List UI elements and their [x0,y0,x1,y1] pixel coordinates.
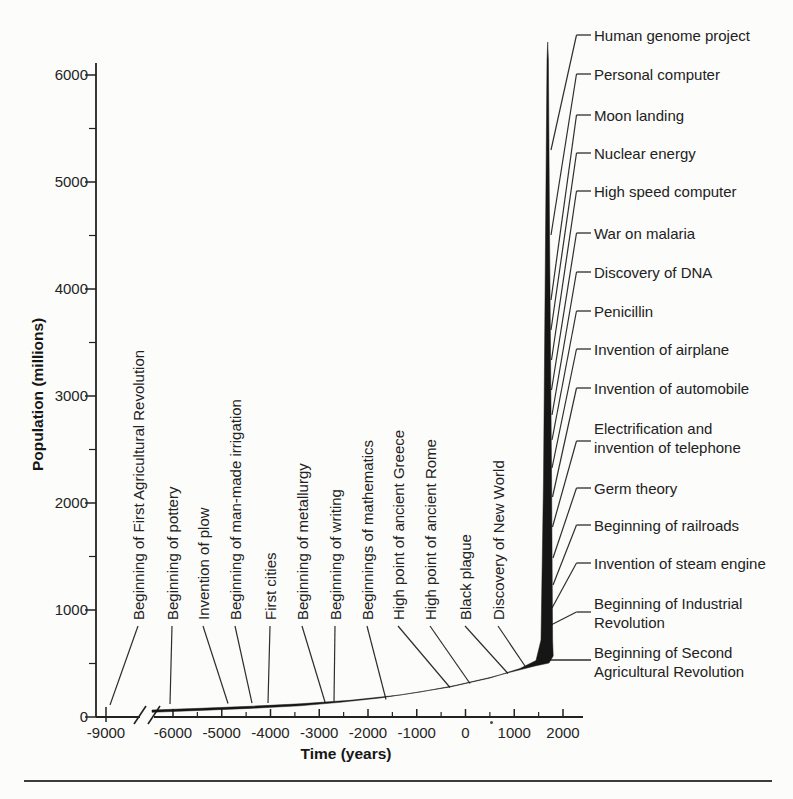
event-label-left-3: Beginning of man-made irrigation [226,399,245,620]
event-label-left-9: High point of ancient Rome [421,439,440,620]
event-label-right-8: Invention of airplane [594,340,793,359]
x-tick-label-2000: 2000 [531,724,595,741]
event-label-right-1: Personal computer [594,65,793,84]
event-label-right-0: Human genome project [594,26,793,45]
event-label-right-5: War on malaria [594,224,793,243]
leader-line-right-3 [551,153,577,330]
event-label-left-0: Beginning of First Agricultural Revoluti… [129,350,148,620]
leader-line-left-3 [235,626,252,703]
y-tick-label-5000: 5000 [42,173,88,190]
leader-line-left-11 [498,626,526,668]
event-label-left-11: Discovery of New World [489,460,508,620]
event-label-left-5: Beginning of metallurgy [293,463,312,620]
event-label-left-1: Beginning of pottery [163,487,182,620]
event-label-right-4: High speed computer [594,182,793,201]
event-label-left-6: Beginning of writing [326,489,345,620]
y-tick-label-2000: 2000 [42,494,88,511]
event-label-left-7: Beginnings of mathematics [358,440,377,620]
leader-line-left-2 [203,626,228,704]
y-tick-label-0: 0 [42,708,88,725]
leader-line-left-8 [398,626,450,688]
leader-line-left-1 [170,626,172,704]
axis-break-slash-2 [148,706,160,724]
y-tick-label-6000: 6000 [42,66,88,83]
event-label-right-15: Beginning of Second Agricultural Revolut… [594,643,793,681]
event-label-right-2: Moon landing [594,106,793,125]
leader-line-left-0 [110,626,138,705]
leader-line-right-12 [553,525,577,585]
leader-line-left-9 [430,626,470,684]
leader-line-right-14 [549,612,577,626]
y-tick-label-4000: 4000 [42,280,88,297]
leader-line-right-13 [552,563,577,608]
leader-line-left-10 [465,626,508,674]
leader-line-left-7 [367,626,386,700]
x-tick-label--9000: -9000 [74,724,138,741]
event-label-right-6: Discovery of DNA [594,263,793,282]
event-label-right-3: Nuclear energy [594,144,793,163]
y-tick-label-1000: 1000 [42,601,88,618]
population-growth-chart: Population (millions) Time (years) 60005… [0,0,793,799]
leader-line-left-6 [334,626,335,702]
event-label-right-9: Invention of automobile [594,379,793,398]
event-label-right-12: Beginning of railroads [594,516,793,535]
event-label-right-13: Invention of steam engine [594,554,793,573]
leader-line-left-4 [268,626,270,703]
leader-line-right-10 [553,441,577,527]
event-label-left-4: First cities [261,553,280,621]
axis-break-slash-1 [134,706,146,724]
event-label-right-10: Electrification and invention of telepho… [594,419,793,457]
leader-line-right-11 [553,488,577,558]
event-label-right-7: Penicillin [594,302,793,321]
leader-line-right-4 [552,191,577,360]
event-label-left-10: Black plague [456,534,475,620]
leader-line-right-0 [551,35,577,150]
event-label-right-11: Germ theory [594,479,793,498]
leader-line-left-5 [302,626,325,702]
event-label-left-2: Invention of plow [194,507,213,620]
x-axis-title: Time (years) [246,745,446,763]
print-speck [490,721,493,724]
event-label-left-8: High point of ancient Greece [389,430,408,620]
y-tick-label-3000: 3000 [42,387,88,404]
event-label-right-14: Beginning of Industrial Revolution [594,594,793,632]
